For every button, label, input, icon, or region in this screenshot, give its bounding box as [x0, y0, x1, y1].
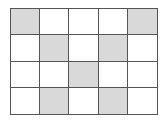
empty-cell [40, 9, 69, 35]
empty-cell [11, 35, 40, 61]
empty-cell [69, 88, 98, 114]
empty-cell [99, 9, 128, 35]
shaded-cell [69, 62, 98, 88]
empty-cell [40, 62, 69, 88]
shaded-cell [128, 9, 157, 35]
empty-cell [69, 9, 98, 35]
empty-cell [128, 62, 157, 88]
empty-cell [11, 88, 40, 114]
empty-cell [11, 62, 40, 88]
shaded-cell [40, 35, 69, 61]
shaded-cell [11, 9, 40, 35]
shaded-grid [10, 8, 158, 115]
shaded-cell [99, 35, 128, 61]
shaded-cell [99, 88, 128, 114]
empty-cell [69, 35, 98, 61]
empty-cell [99, 62, 128, 88]
empty-cell [128, 35, 157, 61]
shaded-cell [40, 88, 69, 114]
empty-cell [128, 88, 157, 114]
